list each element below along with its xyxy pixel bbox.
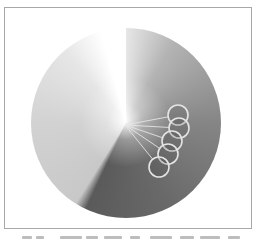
cropped-caption bbox=[0, 234, 256, 240]
gradient-disk bbox=[0, 0, 256, 240]
marker-circle bbox=[149, 157, 169, 177]
conic-gradient-figure bbox=[0, 0, 256, 240]
center-glow bbox=[80, 77, 170, 167]
